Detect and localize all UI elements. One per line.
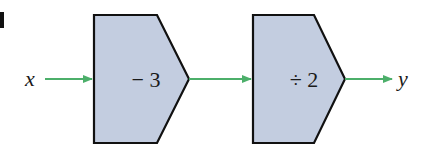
machine-divide: ÷ 2	[253, 15, 345, 143]
function-machine-diagram: x − 3 ÷ 2 y	[0, 0, 425, 146]
output-label: y	[396, 66, 408, 91]
machine-subtract: − 3	[94, 15, 189, 143]
input-label: x	[24, 66, 35, 91]
machine-2-operation: ÷ 2	[290, 67, 319, 92]
machine-1-operation: − 3	[132, 67, 161, 92]
